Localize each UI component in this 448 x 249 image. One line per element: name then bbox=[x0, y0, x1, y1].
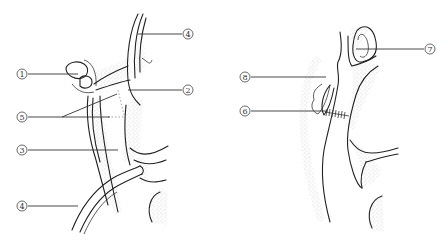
label-7: 7 bbox=[425, 44, 435, 54]
label-4-bottom: 4 bbox=[17, 201, 27, 211]
leader-5-branch-a bbox=[62, 94, 117, 117]
label-4-top: 4 bbox=[183, 29, 193, 39]
tissue-right-band bbox=[348, 63, 380, 130]
label-8: 8 bbox=[240, 72, 250, 82]
main-vessel-left bbox=[322, 32, 341, 222]
anatomical-diagram: 1 5 3 4 4 2 bbox=[0, 0, 448, 249]
svg-text:2: 2 bbox=[185, 86, 190, 95]
label-3: 3 bbox=[17, 145, 27, 155]
svg-text:4: 4 bbox=[19, 202, 24, 211]
right-panel-leaders bbox=[251, 49, 424, 111]
label-2: 2 bbox=[183, 85, 193, 95]
label-6: 6 bbox=[240, 106, 250, 116]
tissue-left-band bbox=[300, 55, 326, 222]
suture-stitches bbox=[326, 109, 345, 119]
svg-text:8: 8 bbox=[242, 73, 247, 82]
tissue-upper-right bbox=[136, 30, 145, 75]
left-panel-drawing bbox=[66, 14, 168, 234]
suture-line bbox=[325, 112, 349, 116]
dashed-guide-vertical bbox=[118, 90, 124, 115]
svg-text:3: 3 bbox=[19, 146, 24, 155]
right-branch-lower bbox=[366, 154, 398, 162]
svg-text:1: 1 bbox=[19, 70, 24, 79]
label-1: 1 bbox=[17, 69, 27, 79]
tissue-lower-right bbox=[150, 190, 168, 225]
svg-text:7: 7 bbox=[427, 45, 432, 54]
side-pouch-inner bbox=[322, 85, 334, 115]
label-5: 5 bbox=[17, 112, 27, 122]
svg-text:6: 6 bbox=[242, 107, 247, 116]
svg-text:5: 5 bbox=[19, 113, 24, 122]
svg-text:4: 4 bbox=[185, 30, 190, 39]
organ-outer-curve bbox=[84, 60, 96, 86]
right-panel-drawing bbox=[300, 27, 398, 232]
